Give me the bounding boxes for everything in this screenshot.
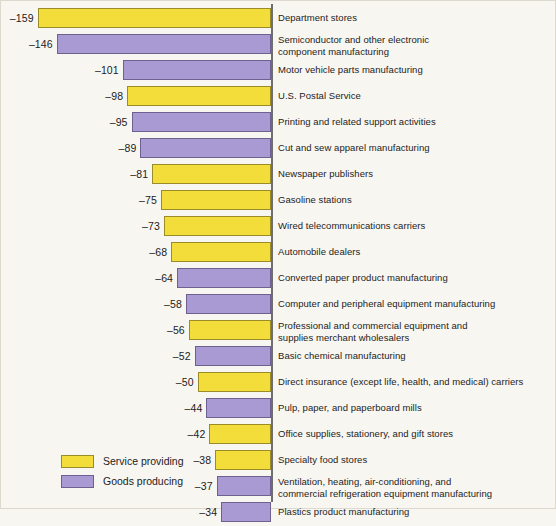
bar-value-label: –75 (0, 190, 157, 210)
category-label-line-1: Basic chemical manufacturing (278, 350, 554, 362)
bar-value-label: –98 (0, 86, 123, 106)
bar-goods (186, 294, 271, 314)
bar-value-label: –64 (0, 268, 173, 288)
bar-goods (177, 268, 271, 288)
category-label-line-1: Newspaper publishers (278, 168, 554, 180)
bar-category-label: Automobile dealers (278, 246, 554, 258)
category-label-line-1: Specialty food stores (278, 454, 554, 466)
bar-category-label: Plastics product manufacturing (278, 506, 554, 518)
bar-row: –146Semiconductor and other electronicco… (0, 34, 556, 60)
bar-row: –81Newspaper publishers (0, 164, 556, 190)
bar-value-label: –58 (0, 294, 182, 314)
bar-goods (123, 60, 271, 80)
bar-goods (132, 112, 271, 132)
category-label-line-1: Printing and related support activities (278, 116, 554, 128)
bar-goods (57, 34, 271, 54)
bar-category-label: Basic chemical manufacturing (278, 350, 554, 362)
bar-goods (195, 346, 271, 366)
bar-value-label: –146 (0, 34, 53, 54)
category-label-line-1: Wired telecommunications carriers (278, 220, 554, 232)
bar-category-label: Department stores (278, 12, 554, 24)
bar-value-label: –101 (0, 60, 119, 80)
bar-category-label: U.S. Postal Service (278, 90, 554, 102)
category-label-line-1: Department stores (278, 12, 554, 24)
bar-row: –98U.S. Postal Service (0, 86, 556, 112)
bar-service (127, 86, 271, 106)
bar-value-label: –95 (0, 112, 128, 132)
bar-category-label: Ventilation, heating, air-conditioning, … (278, 476, 554, 499)
bar-row: –34Plastics product manufacturing (0, 502, 556, 526)
bar-category-label: Computer and peripheral equipment manufa… (278, 298, 554, 310)
bar-service (171, 242, 271, 262)
bar-category-label: Gasoline stations (278, 194, 554, 206)
bar-row: –64Converted paper product manufacturing (0, 268, 556, 294)
bar-value-label: –159 (0, 8, 34, 28)
legend-label-service: Service providing (103, 453, 184, 470)
category-label-line-1: Automobile dealers (278, 246, 554, 258)
bar-row: –159Department stores (0, 8, 556, 34)
bar-row: –95Printing and related support activiti… (0, 112, 556, 138)
category-label-line-1: Plastics product manufacturing (278, 506, 554, 518)
category-label-line-1: Cut and sew apparel manufacturing (278, 142, 554, 154)
bar-row: –44Pulp, paper, and paperboard mills (0, 398, 556, 424)
bar-value-label: –34 (0, 502, 217, 522)
bar-goods (206, 398, 271, 418)
bar-row: –42Office supplies, stationery, and gift… (0, 424, 556, 450)
category-label-line-1: Computer and peripheral equipment manufa… (278, 298, 554, 310)
category-label-line-1: Ventilation, heating, air-conditioning, … (278, 476, 554, 488)
category-label-line-1: Motor vehicle parts manufacturing (278, 64, 554, 76)
bar-service (164, 216, 271, 236)
bar-service (161, 190, 271, 210)
bar-value-label: –42 (0, 424, 205, 444)
bar-value-label: –52 (0, 346, 191, 366)
bar-row: –75Gasoline stations (0, 190, 556, 216)
category-label-line-1: Converted paper product manufacturing (278, 272, 554, 284)
bar-goods (140, 138, 271, 158)
bar-row: –89Cut and sew apparel manufacturing (0, 138, 556, 164)
bar-value-label: –50 (0, 372, 194, 392)
bar-value-label: –68 (0, 242, 167, 262)
bar-row: –101Motor vehicle parts manufacturing (0, 60, 556, 86)
category-label-line-1: U.S. Postal Service (278, 90, 554, 102)
bar-value-label: –44 (0, 398, 202, 418)
bar-category-label: Office supplies, stationery, and gift st… (278, 428, 554, 440)
chart-legend: Service providing Goods producing (61, 453, 251, 491)
bar-category-label: Motor vehicle parts manufacturing (278, 64, 554, 76)
bar-service (152, 164, 271, 184)
bar-value-label: –56 (0, 320, 185, 340)
legend-item-goods: Goods producing (61, 473, 251, 491)
bar-row: –52Basic chemical manufacturing (0, 346, 556, 372)
category-label-line-1: Direct insurance (except life, health, a… (278, 376, 554, 388)
bar-value-label: –81 (0, 164, 148, 184)
bar-service (209, 424, 271, 444)
bar-category-label: Professional and commercial equipment an… (278, 320, 554, 343)
bar-category-label: Pulp, paper, and paperboard mills (278, 402, 554, 414)
legend-swatch-service-icon (61, 455, 94, 468)
bar-category-label: Specialty food stores (278, 454, 554, 466)
bar-category-label: Newspaper publishers (278, 168, 554, 180)
category-label-line-1: Professional and commercial equipment an… (278, 320, 554, 332)
category-label-line-1: Semiconductor and other electronic (278, 34, 554, 46)
bar-value-label: –73 (0, 216, 160, 236)
bar-value-label: –89 (0, 138, 136, 158)
bar-row: –56Professional and commercial equipment… (0, 320, 556, 346)
bar-row: –73Wired telecommunications carriers (0, 216, 556, 242)
category-label-line-2: commercial refrigeration equipment manuf… (278, 488, 554, 500)
bar-row: –68Automobile dealers (0, 242, 556, 268)
bar-category-label: Printing and related support activities (278, 116, 554, 128)
legend-label-goods: Goods producing (103, 473, 183, 490)
bar-category-label: Wired telecommunications carriers (278, 220, 554, 232)
bar-service (38, 8, 271, 28)
category-label-line-1: Gasoline stations (278, 194, 554, 206)
category-label-line-2: supplies merchant wholesalers (278, 332, 554, 344)
bar-service (189, 320, 271, 340)
category-label-line-1: Pulp, paper, and paperboard mills (278, 402, 554, 414)
bar-goods (221, 502, 271, 522)
bar-row: –58Computer and peripheral equipment man… (0, 294, 556, 320)
bar-category-label: Converted paper product manufacturing (278, 272, 554, 284)
legend-swatch-goods-icon (61, 475, 94, 488)
bar-category-label: Cut and sew apparel manufacturing (278, 142, 554, 154)
category-label-line-1: Office supplies, stationery, and gift st… (278, 428, 554, 440)
category-label-line-2: component manufacturing (278, 46, 554, 58)
